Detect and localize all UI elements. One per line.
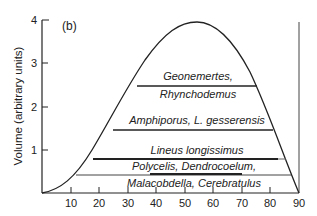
band-label-polycelis: Polycelis, Dendrocoelum, xyxy=(132,160,256,172)
band-label-amphiporus: Amphiporus, L. gesserensis xyxy=(128,114,265,126)
band-label-lineus: Lineus longissimus xyxy=(151,144,244,156)
y-tick-label: 4 xyxy=(31,14,37,26)
x-tick-label: 20 xyxy=(93,197,105,209)
panel-label: (b) xyxy=(62,19,77,33)
x-tick-label: 10 xyxy=(65,197,77,209)
band-label-rhynchodemus: Rhynchodemus xyxy=(160,88,237,100)
y-tick-label: 3 xyxy=(31,57,37,69)
x-tick-label: 90 xyxy=(293,197,305,209)
chart: 4 3 2 1 Volume (arbitrary units) (b) 10 … xyxy=(0,0,317,216)
y-axis-label: Volume (arbitrary units) xyxy=(12,46,24,165)
x-tick-label: 80 xyxy=(264,197,276,209)
y-tick-label: 1 xyxy=(31,144,37,156)
x-tick-label: 30 xyxy=(122,197,134,209)
x-tick-label: 50 xyxy=(179,197,191,209)
x-tick-label: 40 xyxy=(150,197,162,209)
x-tick-label: 60 xyxy=(207,197,219,209)
x-tick-label: 70 xyxy=(236,197,248,209)
band-label-geonemertes: Geonemertes, xyxy=(163,70,233,82)
band-label-malacobdella: Malacobdella, Cerebratulus xyxy=(127,177,261,189)
y-tick-label: 2 xyxy=(31,101,37,113)
